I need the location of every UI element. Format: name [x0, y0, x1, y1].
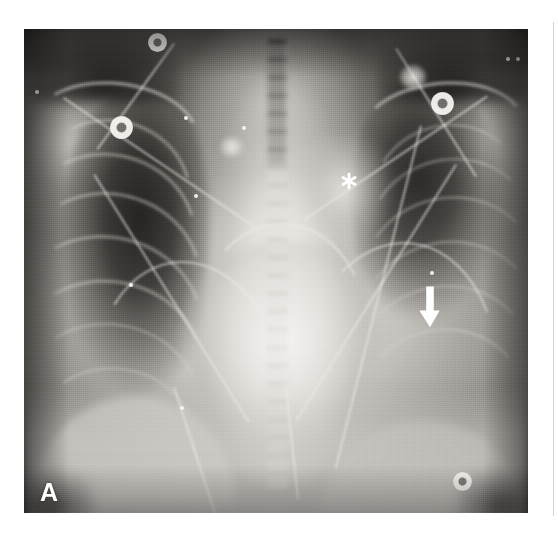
electrode-mid-right — [110, 116, 133, 139]
marker-dot-right-lung-c — [129, 283, 133, 287]
asterisk-marker — [340, 172, 358, 190]
figure-root: A — [0, 0, 558, 537]
down-arrow-marker — [417, 286, 443, 328]
marker-dot-right-lung-d — [180, 406, 184, 410]
panel-label: A — [40, 480, 59, 505]
electrode-upper-left — [431, 92, 454, 115]
bowel-gas-left — [24, 465, 95, 513]
chest-radiograph-image: A — [24, 29, 528, 513]
electrode-lower-left — [453, 472, 472, 491]
opacity-nodule-left-apex — [400, 65, 426, 89]
marker-dot-top-right-a — [506, 57, 510, 61]
marker-dot-apex-left — [242, 126, 246, 130]
marker-dot-top-right-b — [516, 57, 520, 61]
marker-dot-right-lung-a — [184, 116, 188, 120]
marker-dot-left-lung — [430, 271, 434, 275]
opacity-nodule-right-hilum — [220, 137, 244, 157]
adjacent-panel-edge — [553, 22, 554, 516]
electrode-upper-right — [148, 33, 167, 52]
marker-dot-right-lung-b — [194, 194, 198, 198]
marker-dot-shoulder-right — [35, 90, 39, 94]
